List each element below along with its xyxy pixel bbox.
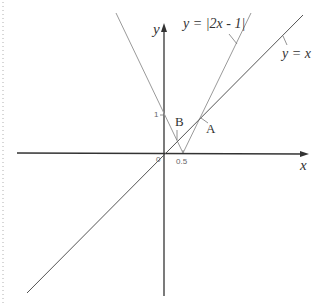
graph-diagram: y x 0 0.5 1 y = |2x - 1| y = x A B [0,0,328,308]
point-b-label: B [175,115,184,128]
abs-curve-leader [229,34,237,44]
graph-canvas [0,0,328,308]
y-tick-label: 1 [154,111,158,119]
point-a-label: A [206,122,215,135]
origin-label: 0 [156,156,160,164]
abs-curve-label: y = |2x - 1| [183,17,245,31]
y-axis-label: y [153,22,160,37]
line-label: y = x [282,47,311,61]
x-tick-label: 0.5 [176,158,187,166]
abs-curve [116,13,251,153]
y-axis-arrow-icon [161,23,167,32]
line-leader [283,36,287,45]
x-axis [17,153,303,154]
x-axis-label: x [300,158,307,173]
